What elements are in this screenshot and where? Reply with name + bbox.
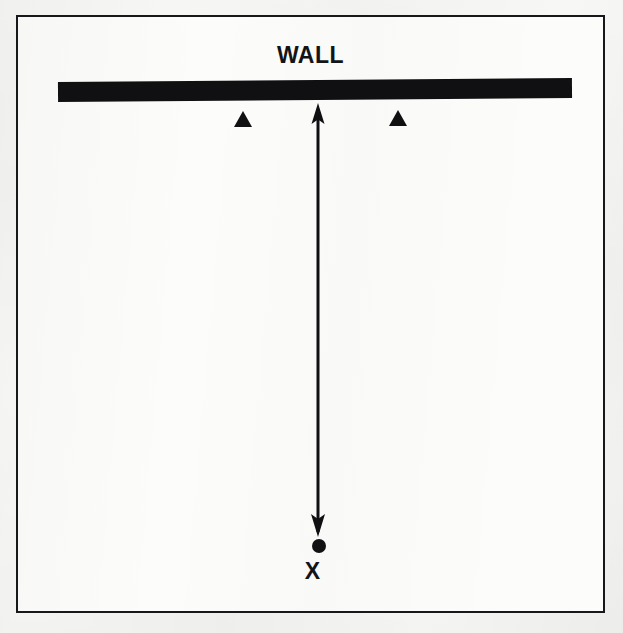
marker-triangle-right-icon: [389, 110, 407, 126]
wall-bar: [58, 78, 572, 102]
distance-arrow-icon: [296, 100, 340, 540]
figure-page: WALL X: [0, 0, 623, 633]
position-dot: [312, 539, 326, 553]
position-label-x: X: [1, 560, 623, 583]
wall-label: WALL: [0, 44, 622, 67]
marker-triangle-left-icon: [234, 111, 252, 127]
